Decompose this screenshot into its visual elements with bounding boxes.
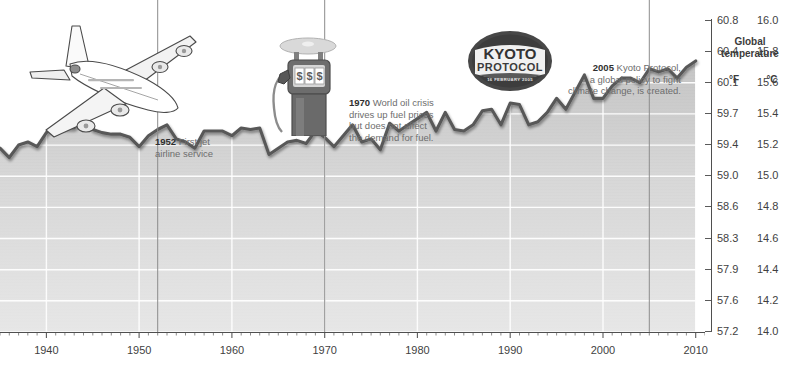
- y-tick-celsius: 14.8: [757, 200, 791, 212]
- y-tick-fahrenheit: 60.8: [717, 14, 751, 26]
- airliner-illustration: [8, 18, 198, 143]
- annotation-1970-year: 1970: [349, 97, 370, 108]
- y-tick-row: 60.415.8: [705, 45, 795, 59]
- y-tick-fahrenheit: 57.6: [717, 294, 751, 306]
- x-axis: [0, 333, 705, 339]
- fuel-pump-illustration: $$$: [266, 24, 344, 136]
- y-axis-panel: Global temperature °F °C 60.816.060.415.…: [705, 0, 795, 386]
- y-tick-celsius: 15.2: [757, 138, 791, 150]
- y-tick-fahrenheit: 59.0: [717, 169, 751, 181]
- annotation-2005-line3: climate change, is created.: [568, 85, 681, 96]
- y-tick-fahrenheit: 57.9: [717, 263, 751, 275]
- annotation-1970-line4: the demand for fuel.: [349, 132, 434, 143]
- annotation-1952-line1: First jet: [179, 136, 210, 147]
- y-tick-row: 57.914.4: [705, 263, 795, 277]
- y-tick-celsius: 14.0: [757, 325, 791, 337]
- y-tick-row: 60.115.6: [705, 76, 795, 90]
- annotation-1970-line3: but does not affect: [349, 120, 427, 131]
- x-axis-label-1960: 1960: [212, 344, 252, 356]
- global-temperature-infographic: $$$ KYOTO PROTOCOL 16 FEBRUARY 2005 1952…: [0, 0, 795, 386]
- y-tick-row: 58.614.8: [705, 200, 795, 214]
- x-axis-label-1970: 1970: [305, 344, 345, 356]
- y-tick-fahrenheit: 59.7: [717, 107, 751, 119]
- stamp-line1: KYOTO: [483, 45, 536, 62]
- y-tick-fahrenheit: 58.3: [717, 232, 751, 244]
- annotation-1952-line2: airline service: [155, 148, 213, 159]
- y-tick-fahrenheit: 60.1: [717, 76, 751, 88]
- annotation-1970-line1: World oil crisis: [373, 97, 434, 108]
- x-axis-label-1990: 1990: [490, 344, 530, 356]
- y-tick-row: 58.314.6: [705, 232, 795, 246]
- y-tick-celsius: 15.6: [757, 76, 791, 88]
- y-tick-row: 59.015.0: [705, 169, 795, 183]
- y-tick-fahrenheit: 57.2: [717, 325, 751, 337]
- y-axis-spine: [711, 19, 712, 331]
- y-tick-row: 59.415.2: [705, 138, 795, 152]
- x-axis-label-2010: 2010: [676, 344, 716, 356]
- y-tick-row: 57.614.2: [705, 294, 795, 308]
- y-tick-celsius: 14.4: [757, 263, 791, 275]
- annotation-1970: 1970 World oil crisis drives up fuel pri…: [349, 97, 474, 143]
- y-tick-fahrenheit: 58.6: [717, 200, 751, 212]
- annotation-1952: 1952 First jet airline service: [155, 136, 251, 159]
- annotation-2005-line1: Kyoto Protocol,: [617, 62, 681, 73]
- annotation-2005-line2: a global policy to fight: [590, 74, 681, 85]
- y-tick-row: 57.214.0: [705, 325, 795, 339]
- x-axis-label-1950: 1950: [119, 344, 159, 356]
- y-tick-celsius: 16.0: [757, 14, 791, 26]
- y-tick-fahrenheit: 60.4: [717, 45, 751, 57]
- y-tick-dash: [705, 331, 712, 332]
- svg-text:$: $: [316, 70, 322, 82]
- y-tick-celsius: 15.8: [757, 45, 791, 57]
- annotation-1952-year: 1952: [155, 136, 176, 147]
- x-axis-label-1980: 1980: [397, 344, 437, 356]
- y-tick-row: 60.816.0: [705, 14, 795, 28]
- y-tick-celsius: 14.2: [757, 294, 791, 306]
- svg-text:$: $: [306, 70, 312, 82]
- y-tick-celsius: 15.0: [757, 169, 791, 181]
- y-tick-celsius: 14.6: [757, 232, 791, 244]
- y-tick-fahrenheit: 59.4: [717, 138, 751, 150]
- stamp-date: 16 FEBRUARY 2005: [487, 77, 533, 82]
- annotation-2005: 2005 Kyoto Protocol, a global policy to …: [540, 62, 681, 97]
- stamp-line2: PROTOCOL: [477, 61, 543, 73]
- x-axis-label-1940: 1940: [26, 344, 66, 356]
- y-tick-celsius: 15.4: [757, 107, 791, 119]
- svg-text:$: $: [296, 70, 302, 82]
- annotation-2005-year: 2005: [593, 62, 614, 73]
- annotation-1970-line2: drives up fuel prices: [349, 109, 433, 120]
- y-tick-row: 59.715.4: [705, 107, 795, 121]
- x-axis-label-2000: 2000: [583, 344, 623, 356]
